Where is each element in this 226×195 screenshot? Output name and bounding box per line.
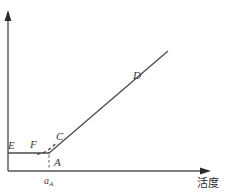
x-axis-label: 活度 bbox=[197, 178, 219, 189]
point-label-a: A bbox=[54, 157, 61, 168]
diagram-canvas bbox=[0, 0, 226, 195]
point-label-c: C bbox=[56, 131, 63, 142]
activity-diagram-figure: E F C A D aA 活度 bbox=[0, 0, 226, 195]
point-label-f: F bbox=[30, 139, 37, 150]
x-axis-tick-label: aA bbox=[44, 176, 53, 186]
point-label-e: E bbox=[8, 140, 15, 151]
tick-label-subscript: A bbox=[49, 180, 53, 187]
y-axis-arrow-icon bbox=[5, 10, 12, 21]
x-axis-arrow-icon bbox=[200, 168, 211, 175]
rising-segment-line bbox=[49, 51, 169, 154]
point-label-d: D bbox=[133, 70, 141, 81]
